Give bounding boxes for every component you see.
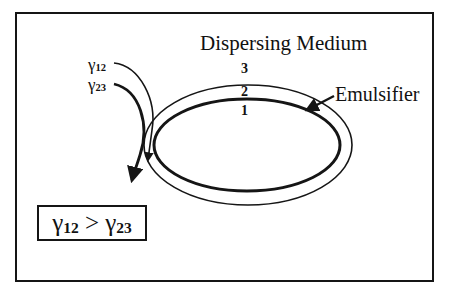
phase-1-label: 1 [241, 104, 248, 118]
phase-2-label: 2 [241, 85, 248, 99]
emulsifier-label: Emulsifier [335, 84, 419, 104]
gamma-symbol: γ [88, 75, 96, 94]
right-gamma: γ [105, 209, 116, 236]
phase-3-label: 3 [241, 62, 248, 76]
gamma12-subscript: 12 [96, 62, 107, 73]
right-subscript: 23 [116, 219, 132, 236]
left-gamma: γ [52, 209, 63, 236]
dispersing-medium-label: Dispersing Medium [200, 33, 367, 54]
gamma23-subscript: 23 [96, 82, 107, 93]
greater-than-operator: > [85, 209, 99, 236]
left-subscript: 12 [63, 219, 79, 236]
relation-box: γ12 > γ23 [37, 205, 147, 241]
relation-expression: γ12 > γ23 [52, 209, 132, 237]
gamma23-label: γ23 [88, 76, 106, 93]
gamma23-arrow [114, 84, 144, 180]
gamma12-arrow [114, 63, 153, 160]
gamma12-label: γ12 [88, 56, 106, 73]
gamma-symbol: γ [88, 55, 96, 74]
